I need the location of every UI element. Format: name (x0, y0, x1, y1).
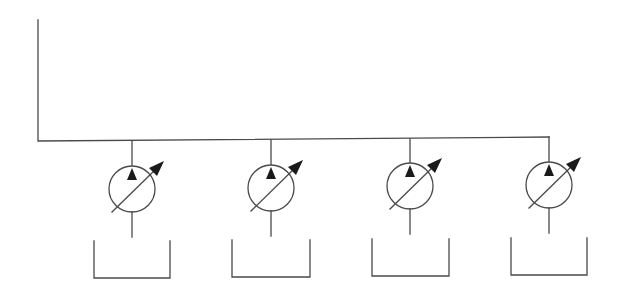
pump-group: Variable displacement pump 1Variable dis… (94, 137, 587, 278)
tank-reservoir (511, 238, 587, 275)
hydraulic-diagram: Variable displacement pump 1Variable dis… (0, 0, 617, 294)
tank-reservoir (94, 241, 170, 278)
pump-unit: Variable displacement pump 2 (232, 140, 310, 277)
tank-reservoir (372, 239, 449, 276)
pump-unit: Variable displacement pump 1 (94, 141, 170, 278)
main-pressure-line (38, 20, 549, 141)
pump-unit: Variable displacement pump 4 (511, 137, 587, 275)
tank-reservoir (232, 240, 310, 277)
pump-unit: Variable displacement pump 3 (372, 139, 449, 276)
